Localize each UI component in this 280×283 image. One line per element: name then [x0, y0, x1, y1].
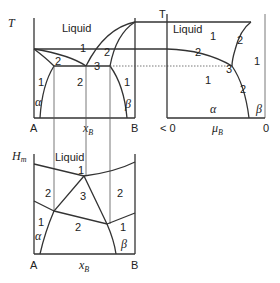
solidus-b [110, 22, 135, 66]
liquid-label-bottom: Liquid [55, 151, 84, 163]
region-1-top-bottom: 1 [78, 164, 84, 176]
region-2-left-bottom: 2 [45, 187, 51, 199]
alpha-label-bottom: α [35, 229, 42, 243]
phase-diagram-figure: T Liquid 1 2 2 3 2 1 1 α β A B xB T Liqu… [0, 0, 280, 283]
mub-label: μB [211, 121, 223, 137]
region-2-mid: 2 [77, 76, 83, 88]
liquid-label-right: Liquid [173, 23, 202, 35]
region-1-top: 1 [80, 42, 86, 54]
region-1-liquid: 1 [210, 30, 216, 42]
alpha-label-right: α [210, 102, 217, 116]
mu-zero-label: 0 [263, 122, 269, 134]
region-2-lower: 2 [240, 83, 246, 95]
t-axis-label: T [8, 16, 16, 30]
region-2-bottom: 2 [75, 221, 81, 233]
region-2-right-bottom: 2 [117, 187, 123, 199]
t-mu-diagram: T Liquid 1 2 2 3 1 1 2 α β < 0 μB 0 [159, 8, 269, 137]
mu-left-label: < 0 [160, 122, 176, 134]
xb-label: xB [82, 121, 93, 137]
xb-label-bottom: xB [78, 258, 89, 274]
region-3-right: 3 [226, 63, 232, 75]
beta-curve [107, 224, 116, 254]
liquid-enthalpy-curve [34, 162, 135, 176]
region-1-left: 1 [38, 76, 44, 88]
beta-label-bottom: β [120, 237, 127, 251]
region-1-left-bottom: 1 [38, 216, 44, 228]
region-1-right: 1 [124, 76, 130, 88]
alpha-label: α [35, 95, 42, 109]
liquid-label: Liquid [62, 22, 91, 34]
region-2-left: 2 [55, 55, 61, 67]
alpha-upper-line [34, 201, 54, 211]
region-2-upper: 2 [237, 34, 243, 46]
region-3: 3 [94, 60, 100, 72]
region-1-beta: 1 [254, 55, 260, 67]
h-x-diagram: Hm Liquid 1 2 3 2 1 2 1 α β A xB B [11, 149, 138, 274]
hm-axis-label: Hm [11, 149, 27, 164]
region-1-alpha: 1 [205, 74, 211, 86]
b-label-bottom: B [131, 259, 138, 271]
region-2-right: 2 [104, 46, 110, 58]
region-2-liquid-alpha: 2 [195, 46, 201, 58]
region-3-bottom: 3 [80, 190, 86, 202]
beta-label-right: β [255, 102, 262, 116]
beta-label: β [124, 97, 131, 111]
solidus-a [34, 49, 54, 66]
t-axis-label-right: T [159, 8, 166, 20]
b-label: B [131, 122, 138, 134]
a-label-bottom: A [30, 259, 38, 271]
region-1-right-bottom: 1 [120, 221, 126, 233]
solvus-alpha [40, 66, 54, 118]
a-label: A [30, 122, 38, 134]
